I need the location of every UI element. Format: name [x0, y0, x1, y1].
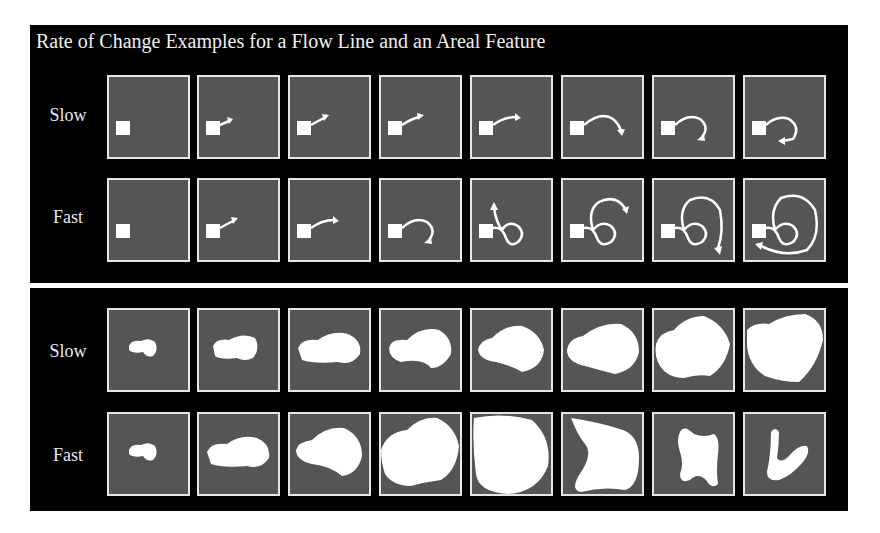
flow-line-icon [199, 77, 278, 157]
flow-line-icon [745, 77, 824, 157]
flow-line-icon [654, 180, 733, 260]
areal-shape-icon [381, 414, 460, 494]
flow-line-icon [381, 77, 460, 157]
flow-line-icon [290, 77, 369, 157]
flow-fast-frame-5 [470, 178, 553, 262]
areal-slow-frame-2 [197, 308, 280, 392]
areal-shape-icon [381, 310, 460, 390]
figure: Rate of Change Examples for a Flow Line … [30, 25, 848, 511]
areal-shape-icon [745, 310, 824, 390]
flow-slow-frame-6 [561, 75, 644, 159]
row-label-fast: Fast [38, 445, 98, 466]
flow-line-icon [563, 77, 642, 157]
areal-shape-icon [199, 414, 278, 494]
row-label-slow: Slow [38, 341, 98, 362]
flow-slow-frame-5 [470, 75, 553, 159]
areal-shape-icon [563, 310, 642, 390]
areal-shape-icon [472, 414, 551, 494]
flow-line-icon [199, 180, 278, 260]
areal-shape-icon [654, 414, 733, 494]
flow-line-icon [290, 180, 369, 260]
flow-line-icon [381, 180, 460, 260]
flow-slow-frame-3 [288, 75, 371, 159]
flow-line-panel: Rate of Change Examples for a Flow Line … [30, 25, 848, 283]
areal-fast-frame-1 [107, 412, 190, 496]
areal-slow-frame-1 [107, 308, 190, 392]
areal-shape-icon [109, 310, 188, 390]
areal-fast-frame-2 [197, 412, 280, 496]
areal-shape-icon [563, 414, 642, 494]
areal-fast-frame-4 [379, 412, 462, 496]
areal-slow-frame-3 [288, 308, 371, 392]
areal-shape-icon [472, 310, 551, 390]
flow-line-icon [472, 77, 551, 157]
flow-fast-frame-3 [288, 178, 371, 262]
areal-fast-frame-5 [470, 412, 553, 496]
areal-shape-icon [199, 310, 278, 390]
areal-shape-icon [654, 310, 733, 390]
flow-fast-frame-4 [379, 178, 462, 262]
flow-slow-frame-2 [197, 75, 280, 159]
flow-slow-frame-1 [107, 75, 190, 159]
figure-title: Rate of Change Examples for a Flow Line … [36, 30, 545, 53]
flow-fast-frame-6 [561, 178, 644, 262]
start-square-icon [109, 77, 188, 157]
areal-slow-frame-4 [379, 308, 462, 392]
areal-slow-frame-8 [743, 308, 826, 392]
flow-slow-frame-4 [379, 75, 462, 159]
row-label-slow: Slow [38, 105, 98, 126]
areal-slow-frame-6 [561, 308, 644, 392]
flow-line-icon [745, 180, 824, 260]
flow-fast-frame-2 [197, 178, 280, 262]
areal-fast-frame-8 [743, 412, 826, 496]
flow-slow-frame-7 [652, 75, 735, 159]
areal-fast-frame-3 [288, 412, 371, 496]
flow-fast-frame-1 [107, 178, 190, 262]
start-square-icon [109, 180, 188, 260]
areal-feature-panel: Slow Fast [30, 288, 848, 511]
areal-fast-frame-7 [652, 412, 735, 496]
flow-line-icon [654, 77, 733, 157]
areal-shape-icon [290, 414, 369, 494]
flow-slow-frame-8 [743, 75, 826, 159]
areal-slow-frame-5 [470, 308, 553, 392]
areal-shape-icon [290, 310, 369, 390]
flow-line-icon [472, 180, 551, 260]
flow-line-icon [563, 180, 642, 260]
areal-shape-icon [745, 414, 824, 494]
areal-slow-frame-7 [652, 308, 735, 392]
flow-fast-frame-8 [743, 178, 826, 262]
row-label-fast: Fast [38, 207, 98, 228]
areal-shape-icon [109, 414, 188, 494]
areal-fast-frame-6 [561, 412, 644, 496]
flow-fast-frame-7 [652, 178, 735, 262]
